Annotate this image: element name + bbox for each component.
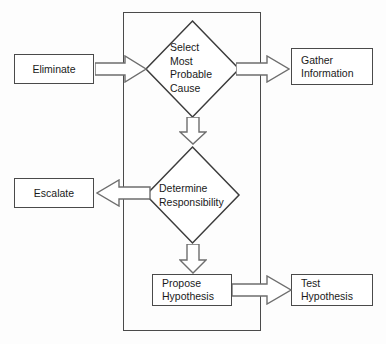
node-escalate-label: Escalate <box>15 187 93 200</box>
node-eliminate[interactable]: Eliminate <box>14 54 94 84</box>
node-gather-information-label: Gather Information <box>292 54 354 80</box>
arrow-propose-hypothesis-to-test-hypothesis <box>232 275 292 305</box>
node-escalate[interactable]: Escalate <box>14 178 94 208</box>
node-gather-information[interactable]: Gather Information <box>291 48 373 85</box>
node-eliminate-label: Eliminate <box>15 63 93 76</box>
arrow-select-most-probable-cause-to-gather-information <box>236 55 290 83</box>
node-propose-hypothesis-label: Propose Hypothesis <box>153 277 214 303</box>
node-test-hypothesis[interactable]: Test Hypothesis <box>291 274 373 306</box>
node-test-hypothesis-label: Test Hypothesis <box>292 277 372 303</box>
arrow-determine-responsibility-to-propose-hypothesis <box>179 244 207 274</box>
node-propose-hypothesis[interactable]: Propose Hypothesis <box>152 274 232 306</box>
arrow-eliminate-to-select-most-probable-cause <box>95 55 147 83</box>
node-determine-responsibility[interactable]: Determine Responsibility <box>145 146 240 244</box>
node-select-most-probable-cause[interactable]: Select Most Probable Cause <box>145 20 240 118</box>
flowchart-canvas: Eliminate Select Most Probable Cause Gat… <box>0 0 386 344</box>
arrow-determine-responsibility-to-escalate <box>96 179 151 207</box>
arrow-select-most-probable-cause-to-determine-responsibility <box>179 117 207 145</box>
